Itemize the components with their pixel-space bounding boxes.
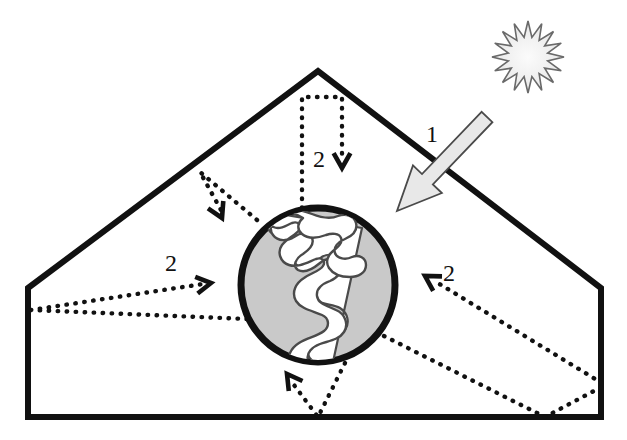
sun-starburst-shape — [492, 21, 564, 93]
label-reflected-left: 2 — [165, 250, 177, 276]
reflected-ray-ray-right — [384, 280, 605, 417]
label-incoming-solar: 1 — [426, 121, 438, 147]
sun-icon — [492, 21, 564, 93]
reflected-ray-ray-left — [31, 284, 247, 319]
earth-globe — [241, 208, 395, 400]
diagram-canvas: 1222 — [0, 0, 627, 440]
ray-arrowhead-ray-bottom — [287, 374, 303, 391]
diagram-root: 1222 — [0, 0, 627, 440]
reflected-ray-ray-upper-left — [200, 172, 257, 220]
ray-arrowhead-ray-left — [195, 277, 211, 294]
label-reflected-right: 2 — [443, 260, 455, 286]
label-reflected-top: 2 — [313, 146, 325, 172]
